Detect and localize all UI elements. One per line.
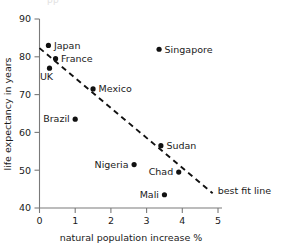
data-point: France bbox=[53, 53, 93, 64]
x-axis-ticks: 012345 bbox=[36, 208, 221, 226]
data-point: Singapore bbox=[156, 44, 212, 55]
data-point-label: Brazil bbox=[43, 113, 70, 124]
y-axis-title: life expectancy in years bbox=[2, 57, 13, 170]
data-point: Japan bbox=[46, 40, 81, 51]
data-point-marker bbox=[53, 56, 58, 61]
data-point: Chad bbox=[149, 166, 182, 177]
data-point-label: Sudan bbox=[166, 140, 196, 151]
data-point-label: Nigeria bbox=[95, 159, 129, 170]
best-fit-line-label: best fit line bbox=[218, 185, 272, 196]
data-point: Nigeria bbox=[95, 159, 137, 170]
data-point-label: Chad bbox=[149, 166, 174, 177]
x-tick-label: 2 bbox=[108, 215, 114, 226]
data-point: Mali bbox=[140, 189, 167, 200]
data-point-marker bbox=[158, 143, 163, 148]
data-point-label: Mexico bbox=[99, 83, 132, 94]
data-point-label: UK bbox=[40, 71, 54, 82]
data-point-label: Japan bbox=[53, 40, 81, 51]
data-point-marker bbox=[46, 43, 51, 48]
plot-area: 405060708090 012345 best fit line JapanF… bbox=[0, 0, 281, 247]
y-tick-label: 50 bbox=[19, 165, 31, 176]
scatter-chart-figure: pp 405060708090 012345 best fit line Jap… bbox=[0, 0, 281, 247]
x-tick-label: 0 bbox=[36, 215, 42, 226]
data-point-marker bbox=[90, 86, 95, 91]
data-point-label: Mali bbox=[140, 189, 159, 200]
data-point-marker bbox=[47, 66, 52, 71]
y-tick-label: 80 bbox=[19, 51, 31, 62]
y-tick-label: 70 bbox=[19, 89, 31, 100]
data-points: JapanFranceUKMexicoBrazilSingaporeSudanN… bbox=[40, 40, 213, 200]
x-tick-label: 1 bbox=[72, 215, 78, 226]
x-tick-label: 5 bbox=[215, 215, 221, 226]
x-tick-label: 3 bbox=[144, 215, 150, 226]
x-axis-title: natural population increase % bbox=[60, 232, 203, 243]
y-axis-ticks: 405060708090 bbox=[19, 13, 40, 213]
data-point-marker bbox=[156, 47, 161, 52]
y-tick-label: 90 bbox=[19, 13, 31, 24]
data-point: UK bbox=[40, 66, 54, 83]
data-point-label: Singapore bbox=[165, 44, 213, 55]
x-tick-label: 4 bbox=[179, 215, 185, 226]
data-point-label: France bbox=[61, 53, 93, 64]
data-point: Brazil bbox=[43, 113, 78, 124]
data-point-marker bbox=[132, 162, 137, 167]
data-point-marker bbox=[162, 192, 167, 197]
data-point: Sudan bbox=[158, 140, 196, 151]
data-point-marker bbox=[73, 117, 78, 122]
data-point-marker bbox=[176, 169, 181, 174]
y-tick-label: 40 bbox=[19, 202, 31, 213]
data-point: Mexico bbox=[90, 83, 131, 94]
y-tick-label: 60 bbox=[19, 127, 31, 138]
